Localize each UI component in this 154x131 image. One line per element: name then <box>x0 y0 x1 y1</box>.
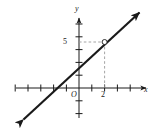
y-tick-label-5: 5 <box>63 38 67 46</box>
x-tick-label-2: 2 <box>101 91 105 99</box>
graph-canvas <box>0 0 154 131</box>
origin-label: O <box>71 91 77 99</box>
cartesian-line-graph: y x O 5 2 <box>0 0 154 131</box>
x-axis-label: x <box>144 86 148 94</box>
y-axis-label: y <box>75 5 79 13</box>
graph-line <box>24 13 140 120</box>
x-axis <box>15 85 146 92</box>
open-circle-marker <box>102 40 107 45</box>
